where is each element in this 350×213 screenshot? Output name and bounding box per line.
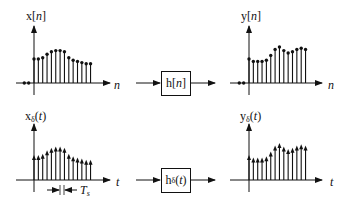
y-n-stems	[238, 45, 308, 84]
y-delta-label-end: )	[257, 109, 261, 123]
y-delta-axis-label: t	[330, 176, 333, 188]
continuous-block-end: )	[183, 173, 187, 188]
y-delta-axes	[230, 124, 322, 192]
ts-label-main: T	[80, 183, 87, 197]
discrete-block-main: h[	[166, 76, 176, 91]
y-n-label-end: ]	[257, 9, 261, 23]
y-n-axis-label: n	[328, 79, 334, 91]
x-delta-label: xδ(t)	[25, 110, 46, 124]
x-n-axes	[16, 26, 110, 95]
x-n-label-main: x[	[26, 9, 36, 23]
x-delta-axis-label: t	[116, 176, 119, 188]
x-n-label: x[n]	[26, 10, 46, 22]
discrete-block-end: ]	[182, 76, 186, 91]
y-n-label-main: y[	[241, 9, 251, 23]
continuous-system-block: hδ(t)	[161, 168, 191, 193]
system-arrows	[136, 83, 215, 180]
x-delta-impulses	[32, 147, 93, 180]
y-n-label: y[n]	[241, 10, 261, 22]
y-delta-label: yδ(t)	[240, 110, 261, 124]
sampling-interval-marker	[47, 185, 77, 195]
x-delta-label-end: )	[42, 109, 46, 123]
x-n-stems	[23, 49, 93, 85]
ts-label: Ts	[80, 184, 90, 198]
ts-label-sub: s	[87, 189, 90, 198]
x-n-axis-label: n	[114, 79, 120, 91]
y-delta-impulses	[247, 143, 308, 180]
x-delta-axes	[16, 124, 110, 192]
x-n-label-end: ]	[42, 9, 46, 23]
discrete-system-block: h[n]	[161, 71, 191, 96]
